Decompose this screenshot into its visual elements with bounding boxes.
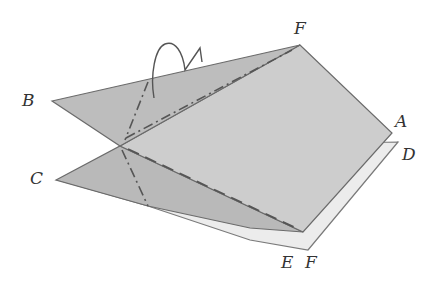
diagram-canvas: [0, 0, 446, 294]
label-F-top: F: [294, 20, 306, 37]
label-B: B: [22, 92, 35, 109]
label-A: A: [395, 113, 407, 130]
label-D: D: [402, 146, 416, 163]
label-E: E: [281, 254, 293, 271]
label-C: C: [30, 170, 43, 187]
origami-diagram: F B A D C E F: [0, 0, 446, 294]
label-F-bottom: F: [305, 254, 317, 271]
